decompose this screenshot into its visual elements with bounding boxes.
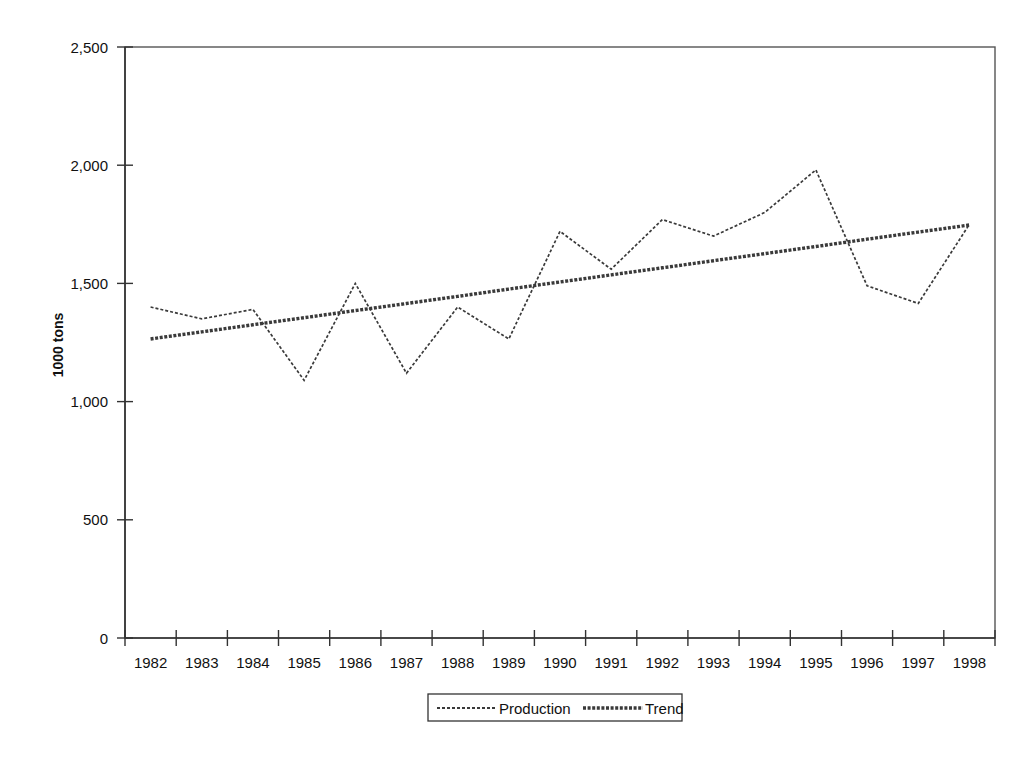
y-tick-label-2500: 2,500 (70, 39, 108, 56)
y-tick-label-1000: 1,000 (70, 393, 108, 410)
x-tick-label-1993: 1993 (697, 654, 730, 671)
x-tick-label-1997: 1997 (902, 654, 935, 671)
legend-label-production: Production (499, 700, 571, 717)
x-tick-label-1983: 1983 (185, 654, 218, 671)
y-tick-label-2000: 2,000 (70, 157, 108, 174)
y-tick-label-0: 0 (100, 630, 108, 647)
chart-legend: Production Trend (428, 694, 684, 721)
x-tick-label-1991: 1991 (595, 654, 628, 671)
x-tick-label-1984: 1984 (236, 654, 269, 671)
x-tick-label-1989: 1989 (492, 654, 525, 671)
x-tick-label-1987: 1987 (390, 654, 423, 671)
x-tick-label-1998: 1998 (953, 654, 986, 671)
x-tick-label-1994: 1994 (748, 654, 781, 671)
x-tick-label-1990: 1990 (543, 654, 576, 671)
y-tick-label-1500: 1,500 (70, 275, 108, 292)
chart-background (0, 0, 1031, 766)
chart-container: 0 500 1,000 1,500 2,000 2,500 1000 tons (0, 0, 1031, 766)
x-tick-label-1985: 1985 (287, 654, 320, 671)
x-tick-label-1986: 1986 (339, 654, 372, 671)
y-tick-label-500: 500 (83, 511, 108, 528)
x-tick-labels: 1982 1983 1984 1985 1986 1987 1988 1989 … (134, 654, 986, 671)
x-tick-label-1996: 1996 (850, 654, 883, 671)
x-tick-label-1988: 1988 (441, 654, 474, 671)
x-tick-label-1995: 1995 (799, 654, 832, 671)
line-chart: 0 500 1,000 1,500 2,000 2,500 1000 tons (0, 0, 1031, 766)
x-tick-label-1982: 1982 (134, 654, 167, 671)
legend-label-trend: Trend (645, 700, 684, 717)
x-tick-label-1992: 1992 (646, 654, 679, 671)
y-axis-title: 1000 tons (50, 312, 66, 377)
